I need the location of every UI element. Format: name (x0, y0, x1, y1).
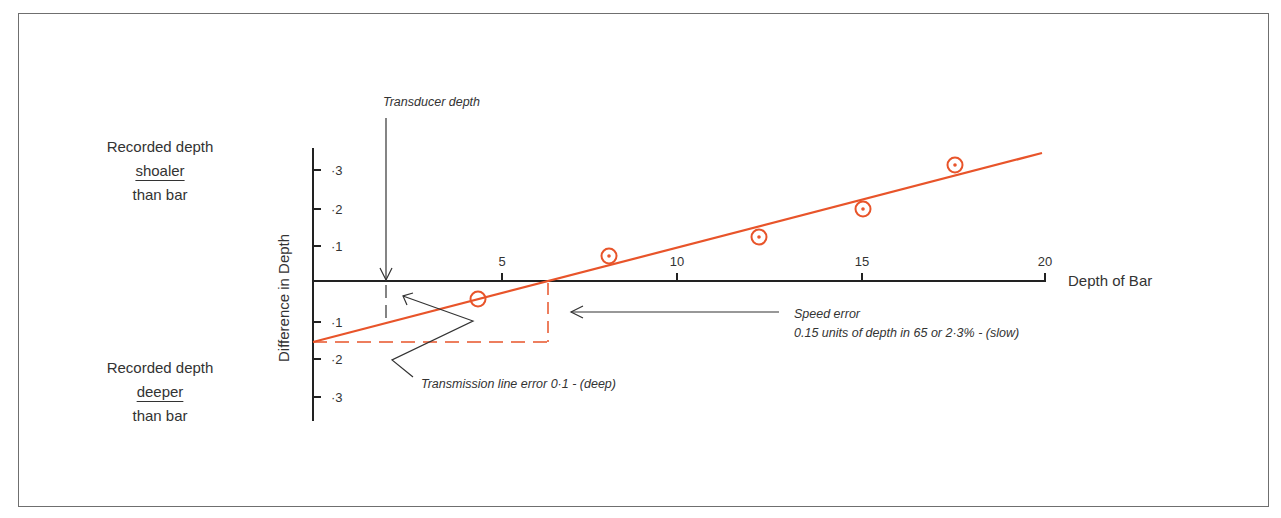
transmission-zigzag-arrow (392, 296, 473, 377)
data-point (948, 158, 963, 173)
y-tick-label: ·1 (331, 239, 343, 254)
x-ticks (502, 273, 1045, 281)
data-point (752, 230, 767, 245)
x-tick-label: 15 (855, 254, 869, 269)
data-point (856, 202, 871, 217)
y-axis-title: Difference in Depth (275, 234, 292, 362)
y-tick-label: ·2 (331, 352, 343, 367)
x-tick-label: 5 (498, 254, 505, 269)
transducer-label: Transducer depth (383, 95, 480, 109)
y-tick-label: ·3 (331, 390, 343, 405)
speed-error-title: Speed error (794, 307, 861, 321)
y-ticks (313, 170, 321, 397)
x-tick-label: 20 (1038, 254, 1052, 269)
fitted-error-line (313, 153, 1042, 342)
x-axis-title: Depth of Bar (1068, 272, 1152, 289)
y-tick-label: ·2 (331, 202, 343, 217)
data-points (471, 158, 963, 307)
speed-error-detail: 0.15 units of depth in 65 or 2·3% - (slo… (794, 326, 1019, 340)
transmission-label: Transmission line error 0·1 - (deep) (421, 377, 616, 391)
y-tick-label: ·3 (331, 163, 343, 178)
data-point (602, 249, 617, 264)
chart-canvas: Difference in Depth ·3 ·2 ·1 ·1 ·2 ·3 5 … (0, 0, 1281, 518)
x-tick-label: 10 (670, 254, 684, 269)
y-tick-label: ·1 (331, 315, 343, 330)
